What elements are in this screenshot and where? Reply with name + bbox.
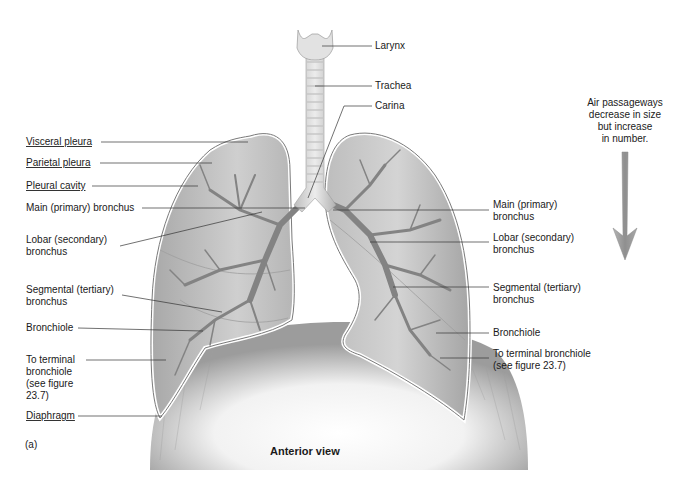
label-line: 23.7) [26, 390, 75, 402]
label-line: Lobar (secondary) [26, 234, 107, 246]
label-line: To terminal [26, 354, 75, 366]
label-line: Segmental (tertiary) [493, 282, 581, 294]
label-pleural-cavity: Pleural cavity [26, 180, 85, 192]
label-text: Diaphragm [26, 410, 75, 421]
label-line: bronchus [493, 244, 574, 256]
label-carina: Carina [375, 100, 404, 112]
label-visceral-pleura: Visceral pleura [26, 136, 92, 148]
label-line: Segmental (tertiary) [26, 284, 114, 296]
label-lobar-bronchus-left: Lobar (secondary) bronchus [26, 234, 107, 258]
label-line: bronchus [493, 211, 557, 223]
label-segmental-bronchus-right: Segmental (tertiary) bronchus [493, 282, 581, 306]
label-bronchiole-right: Bronchiole [493, 327, 540, 339]
label-line: bronchus [26, 246, 107, 258]
label-parietal-pleura: Parietal pleura [26, 157, 90, 169]
label-line: (see figure [26, 378, 75, 390]
label-text: Pleural cavity [26, 180, 85, 191]
label-bronchiole-left: Bronchiole [26, 322, 73, 334]
label-line: Main (primary) [493, 199, 557, 211]
label-line: bronchus [26, 296, 114, 308]
view-title: Anterior view [270, 445, 340, 457]
label-text: Visceral pleura [26, 136, 92, 147]
panel-label: (a) [25, 439, 37, 450]
annotation-line: decrease in size [570, 109, 680, 121]
airway-size-annotation: Air passageways decrease in size but inc… [570, 97, 680, 145]
label-terminal-bronchiole-left: To terminal bronchiole (see figure 23.7) [26, 354, 75, 402]
annotation-line: Air passageways [570, 97, 680, 109]
label-segmental-bronchus-left: Segmental (tertiary) bronchus [26, 284, 114, 308]
label-terminal-bronchiole-right: To terminal bronchiole (see figure 23.7) [493, 348, 591, 372]
label-line: (see figure 23.7) [493, 360, 591, 372]
label-line: bronchus [493, 294, 581, 306]
annotation-line: in number. [570, 133, 680, 145]
label-trachea: Trachea [375, 80, 411, 92]
label-main-bronchus-left: Main (primary) bronchus [26, 202, 134, 214]
label-larynx: Larynx [375, 40, 405, 52]
label-line: Lobar (secondary) [493, 232, 574, 244]
label-lobar-bronchus-right: Lobar (secondary) bronchus [493, 232, 574, 256]
label-diaphragm: Diaphragm [26, 410, 75, 422]
larynx [297, 30, 333, 60]
label-line: To terminal bronchiole [493, 348, 591, 360]
annotation-line: but increase [570, 121, 680, 133]
label-text: Parietal pleura [26, 157, 90, 168]
label-main-bronchus-right: Main (primary) bronchus [493, 199, 557, 223]
label-line: bronchiole [26, 366, 75, 378]
down-arrow-icon [613, 152, 637, 260]
